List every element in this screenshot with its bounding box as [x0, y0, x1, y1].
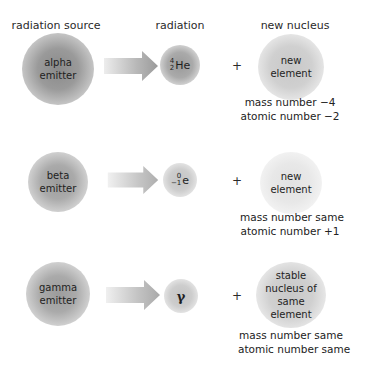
gamma-ray: γ [164, 279, 198, 313]
stable-nucleus: stablenucleus ofsame element [256, 262, 326, 328]
nucleus-label-line1: new [270, 54, 311, 67]
nucleus-label-line2: element [270, 67, 311, 80]
beta-particle: 0−1 e [163, 163, 197, 197]
gamma-emitter-source: gammaemitter [26, 262, 90, 326]
arrow-icon [106, 166, 160, 194]
plus-sign: + [232, 289, 242, 303]
atomic-change: atomic number −2 [240, 109, 340, 123]
header-radiation: radiation [150, 19, 210, 32]
plus-sign: + [232, 59, 242, 73]
nucleus-label-line1: stable [256, 269, 326, 282]
nucleus-label-line2: element [270, 183, 311, 196]
mass-change: mass number −4 [240, 95, 340, 109]
source-label-line1: gamma [39, 281, 77, 294]
atomic-number: −1 [171, 180, 181, 187]
change-note: mass number same atomic number +1 [240, 210, 340, 238]
change-note: mass number −4 atomic number −2 [240, 95, 340, 123]
atomic-number: 2 [170, 65, 174, 72]
mass-change: mass number same [238, 328, 344, 342]
element-symbol: e [182, 174, 189, 187]
header-new-nucleus: new nucleus [250, 19, 340, 32]
header-radiation-source: radiation source [10, 19, 102, 32]
source-label-line2: emitter [40, 69, 77, 82]
alpha-emitter-source: alphaemitter [22, 33, 94, 105]
alpha-particle: 42 He [160, 45, 200, 85]
gamma-symbol: γ [177, 290, 186, 303]
new-nucleus: newelement [258, 34, 324, 100]
mass-change: mass number same [240, 210, 340, 224]
beta-emitter-source: betaemitter [28, 152, 88, 212]
arrow-icon [104, 51, 158, 81]
electron-nuclide: 0−1 e [171, 173, 189, 187]
arrow-icon [106, 280, 160, 310]
source-label-line2: emitter [39, 294, 77, 307]
new-nucleus: newelement [260, 152, 322, 214]
nucleus-label-line2: nucleus of [256, 282, 326, 295]
plus-sign: + [232, 174, 242, 188]
source-label-line1: alpha [40, 56, 77, 69]
nucleus-label-line3: same element [256, 295, 326, 321]
source-label-line2: emitter [40, 182, 77, 195]
atomic-change: atomic number same [238, 342, 344, 356]
element-symbol: He [175, 59, 190, 72]
atomic-change: atomic number +1 [240, 224, 340, 238]
nucleus-label-line1: new [270, 170, 311, 183]
source-label-line1: beta [40, 169, 77, 182]
change-note: mass number same atomic number same [238, 328, 344, 356]
helium-nuclide: 42 He [170, 58, 191, 72]
